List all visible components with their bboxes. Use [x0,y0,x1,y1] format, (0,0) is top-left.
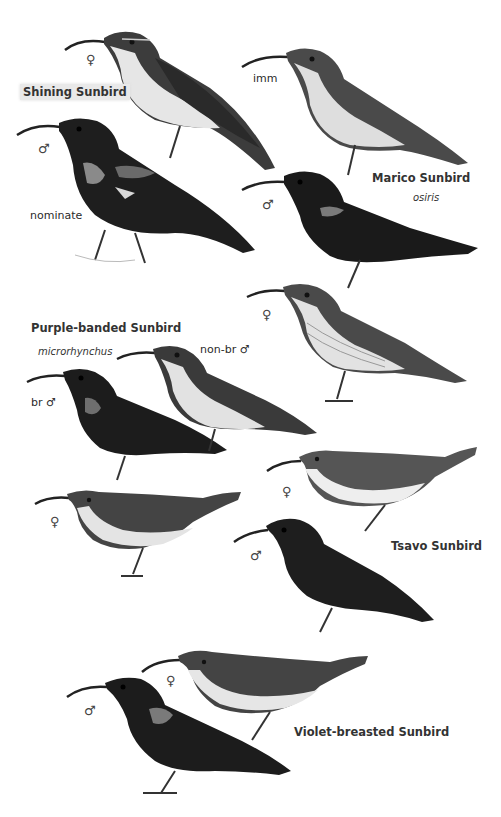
sex-label-female: ♀ [86,52,96,67]
sex-label-male: ♂ [84,703,96,718]
purple-banded-sunbird-nonbreeding-male-illustration [115,345,320,455]
age-label-immature: imm [253,72,278,85]
species-name-purple-banded-sunbird: Purple-banded Sunbird [31,321,181,335]
species-name-tsavo-sunbird: Tsavo Sunbird [391,539,482,553]
label-nonbreeding-male: non-br ♂ [200,343,250,356]
subspecies-label-osiris: osiris [413,192,439,203]
species-name-violet-breasted-sunbird: Violet-breasted Sunbird [294,725,449,739]
marico-sunbird-immature-illustration [240,45,470,185]
subspecies-label-microrhynchus: microrhynchus [38,346,112,357]
subspecies-label-nominate: nominate [30,209,82,222]
marico-sunbird-male-illustration [240,168,480,293]
sex-label-female: ♀ [262,307,272,322]
shining-sunbird-male-illustration [15,115,260,270]
sex-label-male: ♂ [262,197,274,212]
label-breeding-male: br ♂ [31,396,56,409]
purple-banded-sunbird-female-illustration [33,488,243,583]
sex-label-male: ♂ [38,141,50,156]
field-guide-plate: ♀ Shining Sunbird ♂ nominate imm Marico … [0,0,501,817]
sex-label-female: ♀ [282,484,292,499]
species-name-shining-sunbird: Shining Sunbird [20,84,130,100]
violet-breasted-sunbird-male-illustration [65,675,295,800]
tsavo-sunbird-male-illustration [232,516,437,641]
sex-label-female: ♀ [50,514,60,529]
species-name-marico-sunbird: Marico Sunbird [372,171,470,185]
sex-label-male: ♂ [250,548,262,563]
sex-label-female: ♀ [166,673,176,688]
